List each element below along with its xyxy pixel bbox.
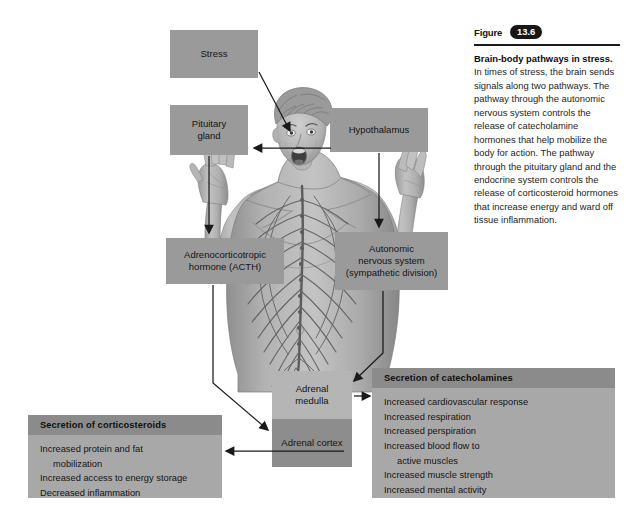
panel-corticosteroids-header: Secretion of corticosteroids <box>28 415 222 435</box>
figure-label: Figure <box>474 27 502 38</box>
list-item: active muscles <box>384 454 615 469</box>
list-item: Increased cardiovascular response <box>384 395 615 410</box>
box-stress: Stress <box>170 30 258 78</box>
box-acth-line2: hormone (ACTH) <box>189 261 261 273</box>
figure-caption-block: Figure 13.6 Brain-body pathways in stres… <box>474 26 620 227</box>
box-pituitary-line2: gland <box>197 130 220 142</box>
box-pituitary-gland: Pituitary gland <box>170 105 248 155</box>
box-autonomic-nervous-system: Autonomic nervous system (sympathetic di… <box>335 232 448 290</box>
panel-catecholamines-header: Secretion of catecholamines <box>372 368 615 388</box>
panel-catecholamines-body: Increased cardiovascular response Increa… <box>372 388 615 504</box>
box-adrenal-cortex: Adrenal cortex <box>272 419 352 467</box>
figure-caption-text: Brain-body pathways in stress. In times … <box>474 52 620 227</box>
list-item: Increased access to energy storage <box>40 471 222 486</box>
figure-container: Stress Pituitary gland Hypothalamus Adre… <box>0 0 627 517</box>
list-item: mobilization <box>40 457 222 472</box>
box-autonomic-line2: nervous system <box>358 255 425 267</box>
box-autonomic-line1: Autonomic <box>369 243 414 255</box>
list-item: Increased protein and fat <box>40 442 222 457</box>
figure-number-badge: 13.6 <box>510 25 542 39</box>
box-pituitary-line1: Pituitary <box>192 118 226 130</box>
box-acth-line1: Adrenocorticotropic <box>184 249 266 261</box>
box-hypothalamus-label: Hypothalamus <box>349 124 410 136</box>
box-adrenal-medulla: Adrenal medulla <box>272 371 352 419</box>
figure-header: Figure 13.6 <box>474 26 620 46</box>
list-item: Increased respiration <box>384 410 615 425</box>
panel-secretion-of-corticosteroids: Secretion of corticosteroids Increased p… <box>28 415 222 498</box>
list-item: Increased blood flow to <box>384 439 615 454</box>
figure-caption-body: In times of stress, the brain sends sign… <box>474 66 618 225</box>
box-adrenal-cortex-label: Adrenal cortex <box>281 437 342 449</box>
box-autonomic-line3: (sympathetic division) <box>346 267 437 279</box>
panel-corticosteroids-body: Increased protein and fat mobilization I… <box>28 435 222 507</box>
box-acth: Adrenocorticotropic hormone (ACTH) <box>166 238 284 284</box>
list-item: Increased mental activity <box>384 483 615 498</box>
box-hypothalamus: Hypothalamus <box>330 108 428 152</box>
box-adrenal-medulla-line2: medulla <box>295 395 328 407</box>
list-item: Decreased inflammation <box>40 486 222 501</box>
figure-caption-title: Brain-body pathways in stress. <box>474 53 613 64</box>
box-adrenal-medulla-line1: Adrenal <box>296 383 329 395</box>
head <box>273 88 332 166</box>
list-item: Increased muscle strength <box>384 468 615 483</box>
list-item: Increased perspiration <box>384 424 615 439</box>
panel-secretion-of-catecholamines: Secretion of catecholamines Increased ca… <box>372 368 615 498</box>
box-stress-label: Stress <box>201 48 228 60</box>
